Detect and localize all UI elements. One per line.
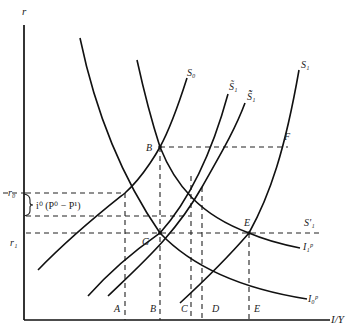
curve-I1p — [137, 60, 300, 248]
curve-S0 — [38, 78, 187, 270]
label-S0: S₀ — [187, 67, 196, 78]
tick-E: E — [253, 303, 260, 314]
price-difference-annotation: i⁰ (P⁰ − P¹) — [36, 200, 81, 212]
curve-S1-doubletilde — [108, 103, 245, 296]
curve-S1-tilde — [88, 94, 228, 296]
investment-saving-diagram: r I/Y S₀ S̃₁ S̃̃₁ S₁ S′₁ I₁ᵖ I₀ᵖ B G E F… — [0, 0, 354, 332]
point-E: E — [243, 217, 250, 228]
tick-C: C — [181, 303, 188, 314]
y-axis-label: r — [22, 5, 27, 17]
point-B: B — [146, 142, 152, 153]
brace-icon — [24, 194, 33, 216]
label-S1-doubletilde: S̃̃₁ — [247, 90, 255, 102]
label-I0p: I₀ᵖ — [307, 293, 319, 304]
x-axis-label: I/Y — [330, 313, 346, 325]
tick-D: D — [211, 303, 220, 314]
point-G: G — [142, 236, 149, 247]
curve-S1 — [180, 70, 299, 303]
tick-r0: r₀ — [8, 187, 16, 198]
point-E-marker — [247, 231, 251, 235]
point-F: F — [283, 131, 291, 142]
label-S1-prime: S′₁ — [304, 217, 315, 228]
tick-B: B — [150, 303, 156, 314]
tick-A: A — [113, 303, 121, 314]
label-I1p: I₁ᵖ — [302, 241, 314, 252]
point-B-marker — [158, 145, 162, 149]
point-G-marker — [158, 231, 162, 235]
tick-r1: r₁ — [10, 237, 17, 248]
label-S1: S₁ — [301, 59, 309, 70]
label-S1-tilde: S̃₁ — [229, 80, 237, 92]
